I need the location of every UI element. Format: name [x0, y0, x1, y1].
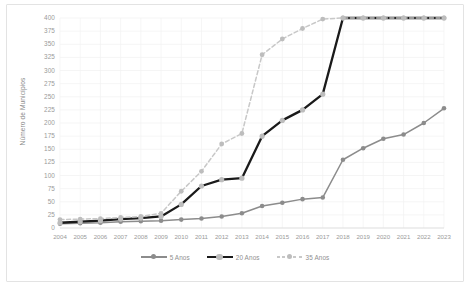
data-point: [300, 107, 305, 112]
series-20-anos: [57, 15, 446, 225]
data-point: [138, 214, 143, 219]
data-point: [159, 211, 164, 216]
data-point: [341, 157, 346, 162]
data-point: [401, 16, 406, 21]
data-point: [199, 216, 204, 221]
data-point: [118, 215, 123, 220]
data-point: [219, 142, 224, 147]
data-point: [300, 26, 305, 31]
plot-area: [0, 0, 470, 286]
data-point: [381, 136, 386, 141]
data-point: [78, 217, 83, 222]
data-point: [320, 17, 325, 22]
data-point: [280, 37, 285, 42]
data-point: [219, 177, 224, 182]
chart-legend: 5 Anos20 Anos35 Anos: [0, 253, 470, 261]
data-point: [280, 118, 285, 123]
data-point: [199, 183, 204, 188]
data-point: [179, 189, 184, 194]
data-point: [179, 202, 184, 207]
data-point: [341, 16, 346, 21]
data-point: [199, 169, 204, 174]
data-point: [260, 52, 265, 57]
data-point: [58, 217, 63, 222]
gridlines: [60, 18, 444, 228]
series-line: [60, 18, 444, 223]
data-point: [240, 211, 245, 216]
data-point: [280, 201, 285, 206]
series-line: [60, 18, 444, 220]
data-point: [401, 132, 406, 137]
series-5-anos: [58, 106, 447, 226]
legend-item-5-anos[interactable]: 5 Anos: [141, 253, 190, 261]
legend-swatch-icon: [141, 253, 167, 261]
series-35-anos: [58, 16, 447, 222]
legend-label: 5 Anos: [170, 254, 190, 261]
data-point: [239, 176, 244, 181]
data-point: [421, 121, 426, 126]
data-point: [381, 16, 386, 21]
legend-label: 35 Anos: [306, 254, 330, 261]
data-point: [239, 131, 244, 136]
data-point: [260, 204, 265, 209]
legend-item-20-anos[interactable]: 20 Anos: [207, 253, 260, 261]
data-point: [361, 16, 366, 21]
data-point: [260, 134, 265, 139]
legend-label: 20 Anos: [236, 254, 260, 261]
line-chart: Número de Municípios 4003753503253002752…: [0, 0, 470, 286]
data-point: [179, 217, 184, 222]
data-series-layer: [57, 15, 446, 226]
data-point: [300, 197, 305, 202]
series-line: [60, 108, 444, 224]
data-point: [320, 92, 325, 97]
legend-swatch-icon: [277, 253, 303, 261]
data-point: [421, 16, 426, 21]
data-point: [98, 216, 103, 221]
data-point: [442, 106, 447, 111]
legend-item-35-anos[interactable]: 35 Anos: [277, 253, 330, 261]
data-point: [320, 195, 325, 200]
data-point: [442, 16, 447, 21]
data-point: [361, 146, 366, 151]
legend-swatch-icon: [207, 253, 233, 261]
data-point: [219, 214, 224, 219]
